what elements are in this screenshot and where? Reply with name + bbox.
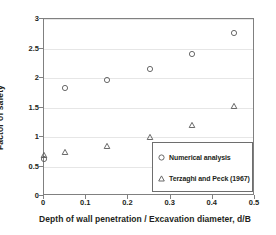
data-point-triangle: [188, 121, 195, 128]
x-tick-mark: [127, 195, 128, 199]
y-tick-label: 2.5: [15, 43, 39, 52]
gridline: [44, 78, 253, 79]
data-point-circle: [146, 65, 153, 72]
data-point-circle: [62, 85, 69, 92]
legend-item-terzaghi-peck: Terzaghi and Peck (1967): [156, 168, 249, 189]
x-tick-mark: [43, 195, 44, 199]
data-point-circle: [41, 156, 48, 163]
x-tick-mark: [212, 195, 213, 199]
data-point-circle: [188, 51, 195, 58]
y-tick-label: 2: [15, 73, 39, 82]
x-tick-mark: [170, 195, 171, 199]
x-tick-label: 0: [28, 198, 58, 207]
circle-marker-icon: [156, 154, 167, 161]
x-tick-label: 0.2: [112, 198, 142, 207]
chart-figure: Factor of safety 00.511.522.53 00.10.20.…: [0, 0, 276, 235]
y-tick-label: 0.5: [15, 161, 39, 170]
y-axis-title: Factor of safety: [0, 0, 22, 235]
data-point-triangle: [104, 142, 111, 149]
gridline: [44, 108, 253, 109]
gridline: [44, 49, 253, 50]
x-axis-title: Depth of wall penetration / Excavation d…: [20, 214, 270, 224]
gridline: [44, 19, 253, 20]
x-tick-label: 0.3: [155, 198, 185, 207]
y-tick-label: 1: [15, 132, 39, 141]
data-point-triangle: [62, 148, 69, 155]
legend-label-numerical-analysis: Numerical analysis: [169, 154, 231, 161]
gridline: [44, 137, 253, 138]
data-point-circle: [230, 29, 237, 36]
legend-item-numerical-analysis: Numerical analysis: [156, 147, 249, 168]
x-tick-mark: [85, 195, 86, 199]
y-tick-label: 1.5: [15, 102, 39, 111]
x-tick-mark: [254, 195, 255, 199]
x-tick-label: 0.1: [70, 198, 100, 207]
data-point-triangle: [41, 151, 48, 158]
legend-label-terzaghi-peck: Terzaghi and Peck (1967): [169, 175, 250, 182]
y-tick-label: 3: [15, 14, 39, 23]
x-tick-label: 0.5: [239, 198, 269, 207]
chart-legend: Numerical analysis Terzaghi and Peck (19…: [152, 142, 253, 192]
x-tick-label: 0.4: [197, 198, 227, 207]
triangle-marker-icon: [156, 175, 167, 182]
